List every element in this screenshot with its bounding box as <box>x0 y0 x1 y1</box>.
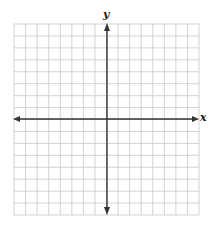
y-axis-label: y <box>103 9 109 20</box>
y-axis-down-arrow-icon <box>104 207 110 215</box>
x-axis-label: x <box>200 112 207 123</box>
x-axis <box>13 116 199 122</box>
coordinate-plane <box>0 0 212 225</box>
x-axis-right-arrow-icon <box>192 116 199 122</box>
